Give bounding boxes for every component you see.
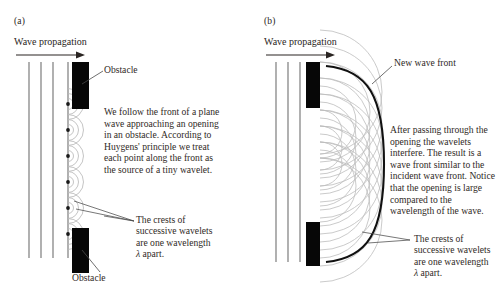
panel-a-crest-line2: successive wavelets: [136, 225, 212, 236]
panel-a-crest-caption: The crests of successive wavelets are on…: [136, 214, 240, 260]
huygens-principle-figure: (a) Wave propagation: [0, 0, 500, 301]
panel-b-crest-line1: The crests of: [414, 233, 464, 244]
panel-a-body-text: We follow the front of a plane wave appr…: [104, 106, 220, 176]
panel-b: (b) Wave propagation: [250, 0, 500, 301]
panel-a-crest-line3: are one wavelength: [136, 237, 211, 248]
panel-a-crest-line1: The crests of: [136, 214, 186, 225]
panel-a-wavelets: [68, 89, 83, 250]
panel-a-crest-line4: apart.: [140, 248, 164, 259]
panel-b-crest-line4: apart.: [418, 267, 442, 278]
panel-a: (a) Wave propagation: [0, 0, 250, 301]
panel-b-wavelets: [320, 30, 382, 282]
panel-b-wavefront-lines: [276, 62, 300, 262]
panel-b-crest-line3: are one wavelength: [414, 256, 489, 267]
panel-a-obstacle-top: [72, 62, 89, 109]
panel-b-crest-line2: successive wavelets: [414, 244, 490, 255]
panel-b-obstacle-top: [306, 62, 320, 108]
panel-a-obstacle-top-label: Obstacle: [104, 64, 138, 75]
panel-a-propagation-arrow: [16, 52, 85, 59]
panel-b-crest-caption: The crests of successive wavelets are on…: [414, 233, 500, 279]
panel-b-body-text: After passing through the opening the wa…: [390, 124, 498, 217]
panel-a-obstacle-bottom: [72, 228, 89, 273]
panel-b-new-wave-front-label: New wave front: [394, 57, 456, 68]
panel-b-propagation-arrow: [266, 52, 335, 59]
panel-a-obstacle-bottom-label: Obstacle: [72, 272, 106, 283]
panel-a-wavefront-lines: [29, 62, 53, 258]
panel-b-new-front-leader: [372, 66, 392, 84]
panel-b-obstacle-bottom: [306, 222, 320, 266]
